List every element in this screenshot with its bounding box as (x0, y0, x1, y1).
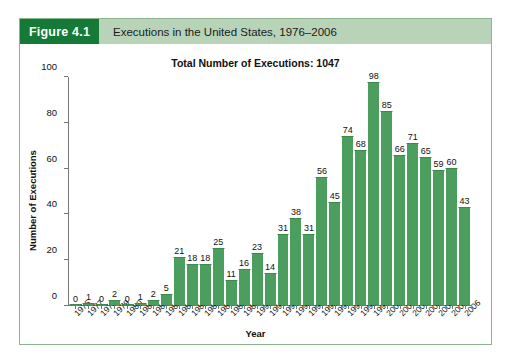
bar-value-label: 45 (328, 191, 341, 201)
bar[interactable] (354, 150, 367, 305)
bar-slot: 712002 (406, 77, 419, 305)
bar-value-label: 1 (134, 292, 147, 302)
bar[interactable] (251, 253, 264, 305)
bar-slot: 652003 (419, 77, 432, 305)
figure-header: Figure 4.1 Executions in the United Stat… (20, 19, 491, 44)
plot-region: 020406080100 019761197701978219790198011… (68, 77, 471, 306)
y-tick-label: 80 (46, 106, 57, 117)
bar-value-label: 65 (419, 146, 432, 156)
bar[interactable] (199, 264, 212, 305)
y-tick: 40 (64, 213, 68, 214)
bar-value-label: 60 (445, 157, 458, 167)
bar-value-label: 16 (238, 258, 251, 268)
y-tick: 60 (64, 168, 68, 169)
bar-slot: 11977 (82, 77, 95, 305)
bar-slot: 311992 (277, 77, 290, 305)
y-tick-label: 20 (46, 244, 57, 255)
bar-value-label: 5 (160, 283, 173, 293)
bar-slot: 561995 (315, 77, 328, 305)
bar[interactable] (264, 273, 277, 305)
bar[interactable] (315, 177, 328, 305)
bar-slot: 211984 (173, 77, 186, 305)
bar[interactable] (289, 218, 302, 305)
bar-slot: 161989 (238, 77, 251, 305)
bar[interactable] (328, 202, 341, 305)
bar-value-label: 23 (251, 242, 264, 252)
chart-area: Total Number of Executions: 1047 Number … (20, 44, 491, 344)
bar-slot: 01978 (95, 77, 108, 305)
y-tick: 80 (64, 122, 68, 123)
bar-slot: 681998 (354, 77, 367, 305)
y-tick: 0 (64, 305, 68, 306)
bar[interactable] (432, 170, 445, 305)
bar[interactable] (277, 234, 290, 305)
bar-slot: 11981 (134, 77, 147, 305)
bar-value-label: 18 (199, 253, 212, 263)
bar-slot: 21979 (108, 77, 121, 305)
bar-slot: 181985 (186, 77, 199, 305)
bar[interactable] (380, 111, 393, 305)
bar-value-label: 1 (82, 292, 95, 302)
bar-value-label: 18 (186, 253, 199, 263)
bar-value-label: 11 (225, 269, 238, 279)
chart-title: Total Number of Executions: 1047 (20, 57, 491, 69)
bar-slot: 741997 (341, 77, 354, 305)
bar-value-label: 74 (341, 125, 354, 135)
bar-value-label: 31 (277, 223, 290, 233)
bar-value-label: 98 (367, 71, 380, 81)
bar-value-label: 43 (458, 196, 471, 206)
bar-value-label: 2 (147, 289, 160, 299)
bar[interactable] (238, 269, 251, 305)
y-tick-label: 40 (46, 198, 57, 209)
bar[interactable] (367, 82, 380, 305)
bar[interactable] (173, 257, 186, 305)
bar-slot: 01980 (121, 77, 134, 305)
bar-series: 0197611977019782197901980119812198251983… (69, 77, 471, 305)
bar-slot: 141991 (264, 77, 277, 305)
bar[interactable] (445, 168, 458, 305)
bar-slot: 111988 (225, 77, 238, 305)
bar[interactable] (341, 136, 354, 305)
y-axis-label-text: Number of Executions (27, 150, 38, 251)
y-tick-label: 60 (46, 152, 57, 163)
bar-slot: 21982 (147, 77, 160, 305)
bar-value-label: 66 (393, 144, 406, 154)
bar[interactable] (458, 207, 471, 305)
bar[interactable] (419, 157, 432, 305)
figure-panel: Figure 4.1 Executions in the United Stat… (19, 18, 492, 345)
bar-value-label: 31 (302, 223, 315, 233)
bar-slot: 592004 (432, 77, 445, 305)
figure-caption: Executions in the United States, 1976–20… (99, 19, 337, 44)
bar[interactable] (302, 234, 315, 305)
bar[interactable] (186, 264, 199, 305)
bar-slot: 51983 (160, 77, 173, 305)
bar-slot: 251987 (212, 77, 225, 305)
bar[interactable] (393, 155, 406, 305)
bar-slot: 852000 (380, 77, 393, 305)
bar-slot: 181986 (199, 77, 212, 305)
bar-value-label: 21 (173, 246, 186, 256)
bar[interactable] (406, 143, 419, 305)
y-tick-label: 0 (52, 290, 57, 301)
bar-value-label: 25 (212, 237, 225, 247)
bar-value-label: 85 (380, 100, 393, 110)
y-tick-label: 100 (41, 61, 57, 72)
bar-slot: 662001 (393, 77, 406, 305)
bar[interactable] (225, 280, 238, 305)
bar-slot: 311994 (302, 77, 315, 305)
bar-value-label: 38 (289, 207, 302, 217)
bar-slot: 451996 (328, 77, 341, 305)
bar-slot: 432006 (458, 77, 471, 305)
bar-value-label: 71 (406, 132, 419, 142)
bar-slot: 602005 (445, 77, 458, 305)
figure-number-badge: Figure 4.1 (20, 19, 99, 44)
bar-slot: 231990 (251, 77, 264, 305)
y-tick: 100 (64, 76, 68, 77)
x-axis-label: Year (20, 328, 491, 339)
bar-value-label: 56 (315, 166, 328, 176)
bar-value-label: 68 (354, 139, 367, 149)
bar-value-label: 59 (432, 159, 445, 169)
y-axis-label: Number of Executions (25, 120, 39, 280)
bar[interactable] (212, 248, 225, 305)
bar-slot: 01976 (69, 77, 82, 305)
